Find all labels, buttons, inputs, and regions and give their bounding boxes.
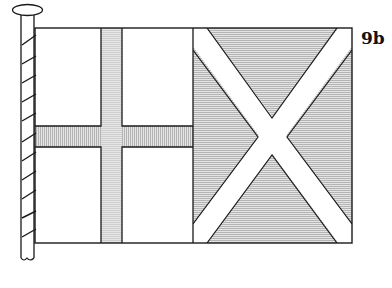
flag-diagram xyxy=(0,0,392,288)
figure-label: 9b xyxy=(361,28,385,48)
right-half-saltire xyxy=(193,28,352,243)
left-half-cross xyxy=(35,28,193,243)
pole-finial xyxy=(13,5,43,16)
